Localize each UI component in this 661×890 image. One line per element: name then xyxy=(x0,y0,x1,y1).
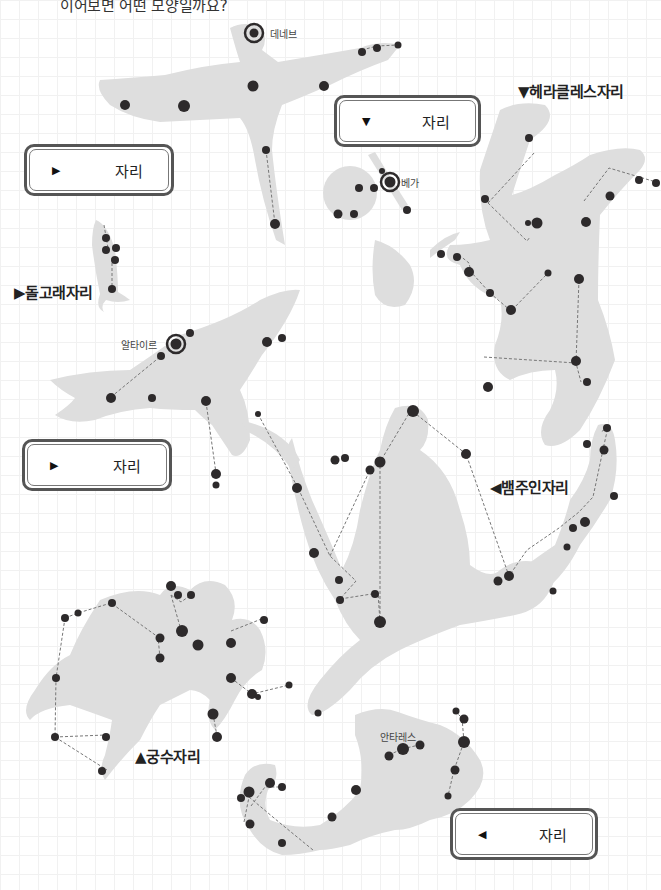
star-label-antares: 안타레스 xyxy=(380,729,416,744)
scorpion-answer-input[interactable] xyxy=(492,825,533,844)
lyra-answer-input[interactable] xyxy=(376,112,416,131)
answer-box-swan[interactable]: ▶ 자리 xyxy=(24,144,174,196)
branch-silhouette xyxy=(373,232,461,307)
answer-box-lyra[interactable]: ▼ 자리 xyxy=(334,95,481,147)
suffix-label: 자리 xyxy=(113,455,140,476)
page-title: 이어보면 어떤 모양일까요? xyxy=(60,0,227,15)
star-label-altair: 알타이르 xyxy=(121,337,157,352)
suffix-label: 자리 xyxy=(115,160,142,181)
answer-box-scorpion[interactable]: ◀ 자리 xyxy=(450,808,598,860)
triangle-right-icon: ▶ xyxy=(52,164,60,177)
ophiuchus-silhouette xyxy=(287,406,554,715)
star-label-vega: 베가 xyxy=(401,175,419,190)
eagle-answer-input[interactable] xyxy=(64,456,107,475)
lyra-silhouette xyxy=(323,166,377,220)
swan-answer-input[interactable] xyxy=(66,161,109,180)
suffix-label: 자리 xyxy=(539,824,566,845)
suffix-label: 자리 xyxy=(422,111,449,132)
scorpius-silhouette xyxy=(240,709,484,855)
label-hercules: ▼헤라클레스자리 xyxy=(518,80,624,101)
star-label-deneb: 데네브 xyxy=(270,26,297,41)
label-ophiuchus: ◀뱀주인자리 xyxy=(490,476,569,497)
label-sagittarius: ▲궁수자리 xyxy=(135,745,200,766)
answer-box-eagle[interactable]: ▶ 자리 xyxy=(22,439,172,491)
triangle-left-icon: ◀ xyxy=(478,828,486,841)
triangle-down-icon: ▼ xyxy=(362,115,370,128)
triangle-right-icon: ▶ xyxy=(50,459,58,472)
dolphin-silhouette xyxy=(92,220,130,312)
label-dolphin: ▶돌고래자리 xyxy=(14,281,93,302)
